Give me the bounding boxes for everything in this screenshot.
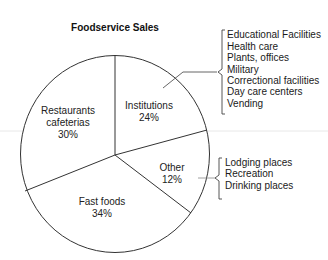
svg-text:cafeterias: cafeterias [46, 117, 89, 128]
svg-text:Plants, offices: Plants, offices [227, 52, 289, 63]
svg-text:Institutions: Institutions [125, 100, 173, 111]
svg-text:Other: Other [159, 162, 185, 173]
svg-text:34%: 34% [92, 208, 112, 219]
svg-text:Recreation: Recreation [225, 168, 273, 179]
svg-text:Military: Military [227, 64, 259, 75]
svg-text:12%: 12% [162, 174, 182, 185]
svg-text:Restaurants: Restaurants [41, 105, 95, 116]
svg-text:24%: 24% [139, 112, 159, 123]
svg-text:Educational Facilities: Educational Facilities [227, 29, 321, 40]
svg-text:Lodging places: Lodging places [225, 157, 292, 168]
svg-text:Health care: Health care [227, 41, 279, 52]
bracket-icon [218, 30, 225, 114]
annotation-other: Lodging places Recreation Drinking place… [198, 157, 293, 199]
svg-text:Vending: Vending [227, 98, 263, 109]
svg-text:Drinking places: Drinking places [225, 180, 293, 191]
slice-label-other: Other 12% [159, 162, 185, 185]
svg-text:30%: 30% [58, 129, 78, 140]
chart-title: Foodservice Sales [71, 22, 159, 33]
svg-text:Day care centers: Day care centers [227, 86, 303, 97]
svg-text:Correctional facilities: Correctional facilities [227, 75, 319, 86]
pie-chart: Foodservice Sales Institutions 24% Other… [0, 0, 328, 260]
svg-text:Fast foods: Fast foods [79, 196, 126, 207]
bracket-icon [215, 158, 222, 199]
